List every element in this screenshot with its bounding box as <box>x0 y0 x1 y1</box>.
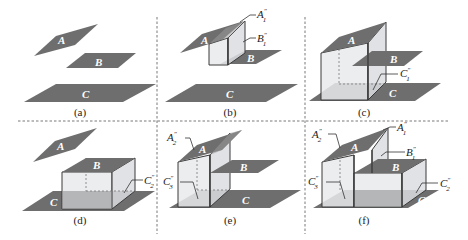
panel-e: C B A A″2 C″3 (e) <box>163 130 301 227</box>
panel-e-caption: (e) <box>224 214 237 227</box>
leader-a2 <box>190 138 194 150</box>
panel-b: C B A A″1 B″1 (b) <box>165 7 298 119</box>
plane-b-label: B <box>239 161 247 173</box>
left-prism-front-face <box>322 155 354 207</box>
plane-c-label: C <box>418 194 426 206</box>
plane-b-label: B <box>246 52 254 64</box>
prism-front-face <box>321 43 368 100</box>
panel-d: A C B C″2 (d) <box>22 128 155 227</box>
panel-c-caption: (c) <box>358 106 371 119</box>
plane-a-label: A <box>57 34 65 46</box>
plane-b-label: B <box>94 56 102 68</box>
prism-front-face <box>178 155 210 207</box>
plane-c <box>24 84 156 102</box>
plane-a-label: A <box>200 34 208 46</box>
label-c3: C″3 <box>308 174 318 191</box>
label-c3: C″3 <box>163 174 173 191</box>
label-a2: A″2 <box>311 127 322 144</box>
panel-f-caption: (f) <box>359 214 370 227</box>
plane-b-label: B <box>389 53 397 65</box>
plane-a-label: A <box>347 34 355 46</box>
panel-a: A B C (a) <box>24 24 156 119</box>
plane-c-label: C <box>226 88 234 100</box>
panel-f: C B A A″2 A″1 B″1 <box>308 120 450 227</box>
plane-c-label: C <box>389 87 397 99</box>
label-b1: B″1 <box>257 31 267 48</box>
label-c2: C″2 <box>440 176 450 193</box>
panel-b-caption: (b) <box>224 106 237 119</box>
plane-a-label: A <box>350 141 358 153</box>
plane-a <box>34 24 98 56</box>
plane-c-label: C <box>50 196 58 208</box>
label-c1: C″1 <box>400 66 410 83</box>
plane-a-label: A <box>56 140 64 152</box>
panel-a-caption: (a) <box>74 106 87 119</box>
right-box-lower-shade <box>354 190 402 207</box>
plane-a-label: A <box>198 143 206 155</box>
plane-c-label: C <box>82 88 90 100</box>
plane-c-label: C <box>242 194 250 206</box>
plane-a <box>33 128 97 162</box>
leader-a2 <box>336 134 340 148</box>
label-a1: A″1 <box>396 120 407 137</box>
panel-d-caption: (d) <box>74 214 87 227</box>
label-c2: C″2 <box>144 173 154 190</box>
box-lower-shade <box>62 191 112 209</box>
label-a2: A″2 <box>166 130 177 147</box>
plane-b-label: B <box>391 161 399 173</box>
panel-c: C B A C″1 (c) <box>309 22 441 119</box>
plane-b-label: B <box>92 159 100 171</box>
label-a1: A″1 <box>256 7 267 24</box>
projection-diagram: A B C (a) C B A A″1 B″1 (b) C <box>0 0 468 240</box>
